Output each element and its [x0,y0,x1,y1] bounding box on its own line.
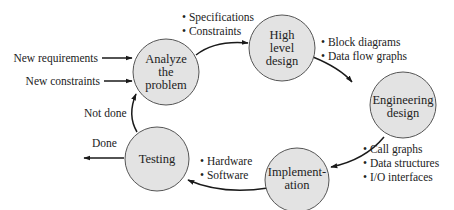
node-label-line: Testing [139,152,176,166]
node-engineering-design: Engineering design [370,72,436,138]
annotation-call-graphs-data-structures-io: • Call graphs • Data structures • I/O in… [363,143,440,183]
node-label-line: the [158,65,174,79]
input-label-new-requirements: New requirements [13,52,98,65]
annotation-line: • Constraints [182,25,242,37]
annotation-line: • Specifications [182,11,255,24]
node-implementation: Implement- ation [265,148,329,210]
node-label-line: ation [285,178,311,192]
annotation-hardware-software: • Hardware • Software [200,155,252,181]
edge-label-not-done: Not done [84,107,126,119]
node-high-level-design: High level design [249,15,315,81]
annotation-line: • Data flow graphs [321,50,408,63]
node-label-line: Analyze [145,52,187,66]
annotation-specifications-constraints: • Specifications • Constraints [182,11,255,37]
edge-implementation-to-testing [188,180,268,190]
node-analyze: Analyze the problem [133,39,199,105]
annotation-line: • I/O interfaces [363,171,433,183]
node-testing: Testing [125,127,189,191]
input-label-new-constraints: New constraints [26,75,101,87]
node-label-line: level [270,41,295,55]
edge-analyze-to-high-level-design [196,43,248,56]
annotation-line: • Block diagrams [321,36,401,49]
annotation-line: • Software [200,169,248,181]
node-label-line: problem [145,78,187,92]
node-label-line: Engineering [372,93,434,107]
edge-testing-to-analyze [132,94,137,132]
annotation-block-diagrams-data-flow: • Block diagrams • Data flow graphs [321,36,408,63]
node-label-line: High [270,28,296,42]
node-label-line: design [387,106,420,120]
annotation-line: • Call graphs [363,143,423,156]
node-label-line: design [266,54,299,68]
edge-label-done: Done [92,137,117,149]
node-label-line: Implement- [268,165,326,179]
annotation-line: • Data structures [363,157,440,169]
design-cycle-diagram: Analyze the problem High level design En… [0,0,454,210]
annotation-line: • Hardware [200,155,252,167]
